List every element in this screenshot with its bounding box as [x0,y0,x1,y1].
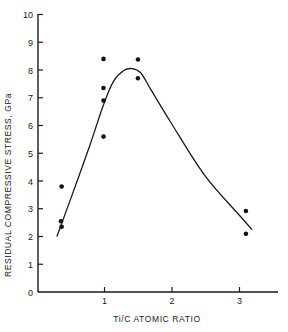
y-tick-label: 0 [28,288,33,298]
y-tick-label: 9 [28,38,33,48]
data-point [244,209,249,214]
data-points [59,57,249,236]
data-point [101,57,106,62]
y-axis-title: RESIDUAL COMPRESSIVE STRESS, GPa [3,93,13,277]
data-point [136,57,141,62]
data-point [101,98,106,103]
y-axis-ticks: 012345678910 [23,10,43,298]
data-point [59,224,64,229]
trend-curve [57,68,252,236]
y-tick-label: 1 [28,260,33,270]
chart: 012345678910 123 Ti/C ATOMIC RATIO RESID… [0,0,288,332]
x-tick-label: 1 [102,296,107,306]
x-tick-label: 2 [169,296,174,306]
y-tick-label: 3 [28,204,33,214]
y-tick-label: 8 [28,66,33,76]
y-tick-label: 2 [28,232,33,242]
data-point [101,134,106,139]
x-axis-title: Ti/C ATOMIC RATIO [113,314,200,324]
y-tick-label: 4 [28,177,33,187]
data-point [244,231,249,236]
y-tick-label: 10 [23,10,33,20]
x-axis-ticks: 123 [102,287,242,306]
y-tick-label: 5 [28,149,33,159]
data-point [59,219,64,224]
data-point [101,86,106,91]
data-point [59,184,64,189]
y-tick-label: 6 [28,121,33,131]
y-tick-label: 7 [28,93,33,103]
x-tick-label: 3 [237,296,242,306]
data-point [136,76,141,81]
